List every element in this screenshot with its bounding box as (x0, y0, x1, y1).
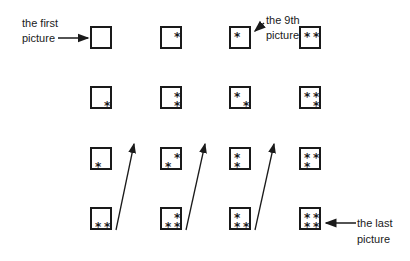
star-icon: * (165, 162, 171, 172)
star-icon: * (313, 153, 319, 163)
picture-box-10: ** (229, 86, 251, 109)
star-icon: * (304, 162, 310, 172)
star-icon: * (304, 222, 310, 232)
star-icon: * (174, 222, 180, 232)
picture-box-14: *** (299, 86, 321, 109)
first-picture-label-line1: the first (22, 16, 58, 30)
star-icon: * (165, 222, 171, 232)
picture-box-9: * (229, 26, 251, 49)
picture-box-7: ** (160, 147, 182, 170)
ninth-picture-label-line1: the 9th (266, 13, 300, 27)
star-icon: * (243, 101, 249, 111)
star-icon: * (104, 101, 110, 111)
star-icon: * (174, 153, 180, 163)
star-icon: * (243, 222, 249, 232)
star-icon: * (304, 92, 310, 102)
ninth-picture-label-line2: picture (266, 28, 299, 42)
column2-to-3-arrow (186, 144, 205, 230)
star-icon: * (95, 222, 101, 232)
picture-box-1 (90, 26, 112, 49)
column1-to-2-arrow (116, 144, 134, 230)
column3-to-4-arrow (255, 144, 274, 230)
picture-box-3: * (90, 147, 112, 170)
star-icon: * (104, 222, 110, 232)
star-icon: * (174, 101, 180, 111)
picture-box-11: ** (229, 147, 251, 170)
star-icon: * (174, 32, 180, 42)
star-icon: * (313, 32, 319, 42)
picture-box-15: *** (299, 147, 321, 170)
star-icon: * (234, 92, 240, 102)
picture-box-2: * (90, 86, 112, 109)
star-icon: * (234, 222, 240, 232)
ninth-picture-arrow (255, 23, 264, 31)
star-icon: * (304, 32, 310, 42)
picture-box-8: *** (160, 207, 182, 230)
picture-box-13: ** (299, 26, 321, 49)
last-picture-label-line1: the last (357, 216, 392, 230)
picture-box-5: * (160, 26, 182, 49)
star-icon: * (234, 162, 240, 172)
first-picture-label-line2: picture (22, 31, 55, 45)
star-icon: * (95, 162, 101, 172)
picture-box-4: ** (90, 207, 112, 230)
last-picture-label-line2: picture (357, 232, 390, 246)
arrows-layer (0, 0, 410, 261)
star-icon: * (313, 101, 319, 111)
picture-box-16: **** (299, 207, 321, 230)
star-icon: * (234, 32, 240, 42)
picture-box-12: *** (229, 207, 251, 230)
picture-box-6: ** (160, 86, 182, 109)
star-icon: * (313, 222, 319, 232)
